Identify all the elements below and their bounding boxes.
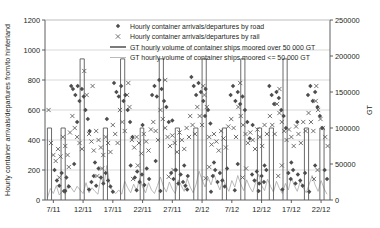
road-marker	[182, 163, 186, 167]
chart-container: 0200400600800100012000500001000001500002…	[0, 0, 380, 228]
rail-marker	[198, 114, 202, 118]
road-marker	[267, 84, 271, 88]
rail-marker	[75, 135, 79, 139]
road-marker	[218, 171, 222, 175]
legend-label-0: Hourly container arrivals/departures by …	[130, 23, 264, 31]
road-marker	[186, 174, 190, 178]
road-marker	[212, 160, 216, 164]
road-marker	[99, 175, 103, 179]
legend-item-0: Hourly container arrivals/departures by …	[116, 23, 264, 31]
pulse-13	[269, 128, 273, 200]
rail-marker	[243, 132, 247, 136]
road-marker	[119, 84, 123, 88]
rail-marker	[270, 123, 274, 127]
road-marker	[150, 93, 154, 97]
rail-marker	[212, 132, 216, 136]
road-marker	[203, 87, 207, 91]
road-marker	[123, 93, 127, 97]
road-marker	[126, 108, 130, 112]
road-marker	[185, 187, 189, 191]
road-marker	[262, 180, 266, 184]
ytick-label-left-200: 200	[28, 166, 40, 175]
rail-marker	[204, 176, 208, 180]
road-marker	[153, 159, 157, 163]
xtick-label-8: 17/12	[282, 205, 301, 214]
road-marker	[289, 160, 293, 164]
rail-marker	[136, 163, 140, 167]
road-marker	[322, 168, 326, 172]
road-marker	[233, 99, 237, 103]
rail-marker	[294, 124, 298, 128]
xtick-label-5: 2/12	[195, 205, 209, 214]
road-marker	[245, 120, 249, 124]
road-marker	[250, 123, 254, 127]
road-marker	[55, 178, 59, 182]
road-marker	[264, 168, 268, 172]
ytick-label-right-50000: 50000	[335, 160, 356, 169]
road-marker	[81, 94, 85, 98]
road-marker	[75, 120, 79, 124]
rail-marker	[167, 175, 171, 179]
road-marker	[306, 93, 310, 97]
ytick-label-right-150000: 150000	[335, 88, 360, 97]
road-marker	[93, 160, 97, 164]
rail-marker	[91, 84, 95, 88]
legend-diamond-icon	[116, 24, 120, 28]
road-marker	[52, 168, 56, 172]
rail-marker	[188, 114, 192, 118]
ytick-label-left-1000: 1000	[24, 46, 40, 55]
ytick-label-left-800: 800	[28, 76, 40, 85]
rail-marker	[292, 144, 296, 148]
xtick-label-4: 27/11	[163, 205, 181, 214]
xtick-label-1: 12/11	[74, 205, 92, 214]
road-marker	[295, 120, 299, 124]
road-marker	[231, 84, 235, 88]
road-marker	[134, 188, 138, 192]
rail-marker	[314, 84, 318, 88]
pulse-5	[140, 128, 144, 200]
road-marker	[308, 84, 312, 88]
road-marker	[112, 81, 116, 85]
rail-marker	[217, 148, 221, 152]
road-marker	[181, 180, 185, 184]
road-marker	[59, 171, 63, 175]
rail-marker	[190, 123, 194, 127]
road-marker	[250, 172, 254, 176]
rail-marker	[113, 132, 117, 136]
road-marker	[296, 172, 300, 176]
road-marker	[236, 162, 240, 166]
rail-marker	[73, 126, 77, 130]
road-marker	[259, 174, 263, 178]
rail-marker	[161, 117, 165, 121]
road-marker	[194, 93, 198, 97]
ytick-label-left-1200: 1200	[24, 16, 40, 25]
road-marker	[169, 171, 173, 175]
rail-marker	[187, 135, 191, 139]
rail-marker	[309, 120, 313, 124]
rail-marker	[77, 141, 81, 145]
rail-marker	[299, 141, 303, 145]
rail-marker	[301, 120, 305, 124]
rail-marker	[173, 141, 177, 145]
legend-label-1: Hourly container arrivals/departures by …	[130, 33, 260, 41]
road-marker	[238, 102, 242, 106]
ytick-label-left-0: 0	[36, 196, 40, 205]
rail-marker	[326, 144, 330, 148]
road-marker	[128, 163, 132, 167]
road-marker	[243, 108, 247, 112]
rail-marker	[70, 114, 74, 118]
rail-marker	[99, 145, 103, 149]
road-marker	[152, 84, 156, 88]
road-marker	[140, 123, 144, 127]
road-marker	[73, 93, 77, 97]
rail-marker	[185, 126, 189, 130]
road-marker	[101, 181, 105, 185]
rail-marker	[234, 135, 238, 139]
road-marker	[209, 190, 213, 194]
rail-marker	[68, 130, 72, 134]
road-marker	[313, 90, 317, 94]
road-marker	[291, 168, 295, 172]
road-marker	[220, 178, 224, 182]
rail-marker	[132, 145, 136, 149]
rail-marker	[210, 142, 214, 146]
